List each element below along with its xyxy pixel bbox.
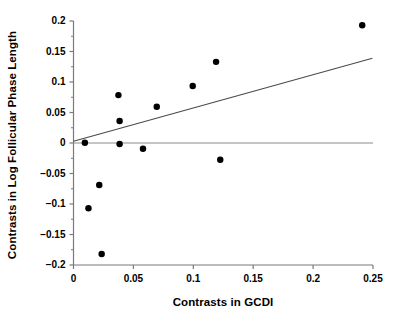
data-point [359, 22, 365, 28]
y-tick-label: −0.2 [24, 260, 66, 270]
y-tick-label: 0 [24, 138, 66, 148]
data-point [189, 83, 195, 89]
data-point [116, 118, 122, 124]
data-point [82, 139, 88, 145]
data-point [140, 146, 146, 152]
axes-group [70, 21, 374, 269]
data-point [116, 141, 122, 147]
x-tick-label: 0.15 [233, 274, 273, 284]
data-point [85, 205, 91, 211]
y-tick-label: 0.1 [24, 77, 66, 87]
data-point [213, 59, 219, 65]
scatter-plot-figure: Contrasts in Log Follicular Phase Length… [0, 0, 394, 323]
y-tick-label: −0.05 [24, 169, 66, 179]
y-tick-label: 0.2 [24, 16, 66, 26]
data-point [98, 251, 104, 257]
x-tick-label: 0.1 [173, 274, 213, 284]
data-points-group [82, 22, 366, 257]
y-tick-label: −0.15 [24, 230, 66, 240]
data-point [154, 103, 160, 109]
data-point [96, 182, 102, 188]
x-tick-label: 0.25 [353, 274, 393, 284]
x-tick-label: 0.05 [113, 274, 153, 284]
y-tick-label: −0.1 [24, 199, 66, 209]
data-point [217, 157, 223, 163]
lines-group [74, 58, 374, 143]
regression-line [74, 58, 373, 141]
y-tick-label: 0.15 [24, 47, 66, 57]
data-point [115, 92, 121, 98]
x-tick-label: 0.2 [293, 274, 333, 284]
y-tick-label: 0.05 [24, 108, 66, 118]
x-tick-label: 0 [54, 274, 94, 284]
